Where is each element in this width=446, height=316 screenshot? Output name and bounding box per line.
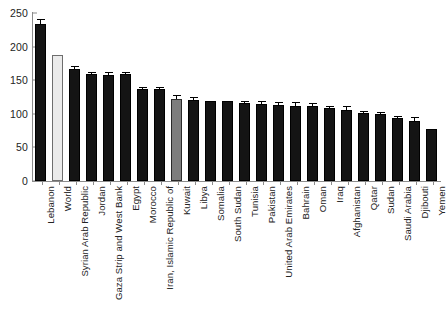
bar[interactable] (324, 108, 335, 181)
error-bar (176, 96, 177, 99)
bar[interactable] (188, 100, 199, 181)
bar-slot (424, 13, 441, 181)
bar-slot (339, 13, 356, 181)
bar[interactable] (154, 89, 165, 181)
bar[interactable] (69, 69, 80, 181)
error-bar (329, 107, 330, 108)
bar[interactable] (52, 55, 63, 181)
y-tick-label: 150 (10, 74, 33, 86)
bar[interactable] (392, 118, 403, 181)
x-tick-mark (280, 182, 281, 185)
bar-slot (407, 13, 424, 181)
x-label-slot: Yemen (424, 184, 441, 314)
x-label-slot: Tunisia (237, 184, 254, 314)
x-tick-mark (263, 182, 264, 185)
error-bar (244, 102, 245, 103)
x-label-slot: Egypt (118, 184, 135, 314)
x-tick-mark (144, 182, 145, 185)
bar-slot (33, 13, 50, 181)
x-tick-mark (93, 182, 94, 185)
x-label-slot: Somalia (203, 184, 220, 314)
error-bar (125, 73, 126, 74)
error-bar-cap (190, 97, 198, 98)
error-bar-cap (326, 106, 334, 107)
bar[interactable] (273, 105, 284, 181)
x-tick-mark (416, 182, 417, 185)
error-bar (380, 113, 381, 114)
error-bar-cap (343, 106, 351, 107)
error-bar-cap (411, 117, 419, 118)
x-label-slot: Saudi Arabia (390, 184, 407, 314)
bar-slot (67, 13, 84, 181)
error-bar-cap (292, 102, 300, 103)
bar[interactable] (256, 104, 267, 181)
bar-slot (271, 13, 288, 181)
y-tick-label: 100 (10, 108, 33, 120)
bar[interactable] (171, 99, 182, 181)
bar[interactable] (86, 74, 97, 181)
bar-slot (220, 13, 237, 181)
x-label-slot: Oman (305, 184, 322, 314)
x-tick-mark (348, 182, 349, 185)
bar-slot (322, 13, 339, 181)
bar[interactable] (137, 89, 148, 181)
error-bar-cap (122, 72, 130, 73)
error-bar (261, 102, 262, 103)
error-bar (312, 104, 313, 105)
bar[interactable] (409, 121, 420, 181)
bar[interactable] (307, 106, 318, 181)
x-axis-labels: LebanonWorldSyrian Arab RepublicJordanGa… (33, 184, 441, 314)
error-bar (346, 107, 347, 110)
error-bar-cap (258, 101, 266, 102)
x-tick-label: Yemen (436, 186, 446, 216)
bar[interactable] (103, 75, 114, 181)
x-tick-mark (195, 182, 196, 185)
error-bar-cap (275, 102, 283, 103)
x-label-slot: Qatar (356, 184, 373, 314)
x-tick-mark (246, 182, 247, 185)
bar-slot (390, 13, 407, 181)
bar[interactable] (358, 113, 369, 181)
bar-slot (203, 13, 220, 181)
bar[interactable] (35, 24, 46, 181)
error-bar-cap (156, 87, 164, 88)
bar[interactable] (222, 101, 233, 181)
bar[interactable] (120, 74, 131, 181)
y-tick-label: 0 (22, 175, 33, 187)
x-tick-mark (382, 182, 383, 185)
x-label-slot: Kuwait (169, 184, 186, 314)
bar[interactable] (341, 110, 352, 181)
error-bar-cap (241, 101, 249, 102)
error-bar (159, 88, 160, 89)
x-label-slot: Iraq (322, 184, 339, 314)
error-bar (74, 67, 75, 68)
x-label-slot: Pakistan (254, 184, 271, 314)
bar[interactable] (205, 101, 216, 181)
x-label-slot: Libya (186, 184, 203, 314)
bar-slot (50, 13, 67, 181)
x-label-slot: Gaza Strip and West Bank (101, 184, 118, 314)
error-bar-cap (105, 72, 113, 73)
error-bar (142, 88, 143, 89)
x-tick-mark (127, 182, 128, 185)
bar[interactable] (239, 103, 250, 181)
error-bar (91, 73, 92, 74)
bar[interactable] (375, 114, 386, 181)
error-bar-cap (309, 103, 317, 104)
bar[interactable] (426, 129, 437, 181)
error-bar-cap (37, 19, 45, 20)
x-tick-mark (76, 182, 77, 185)
error-bar (108, 73, 109, 75)
y-tick-label: 200 (10, 41, 33, 53)
bar-slot (186, 13, 203, 181)
bar[interactable] (290, 106, 301, 181)
x-tick-mark (314, 182, 315, 185)
x-tick-mark (161, 182, 162, 185)
x-label-slot: Bahrain (288, 184, 305, 314)
x-label-slot: United Arab Emirates (271, 184, 288, 314)
x-tick-mark (297, 182, 298, 185)
x-label-slot: South Sudan (220, 184, 237, 314)
x-tick-mark (229, 182, 230, 185)
error-bar-cap (71, 66, 79, 67)
